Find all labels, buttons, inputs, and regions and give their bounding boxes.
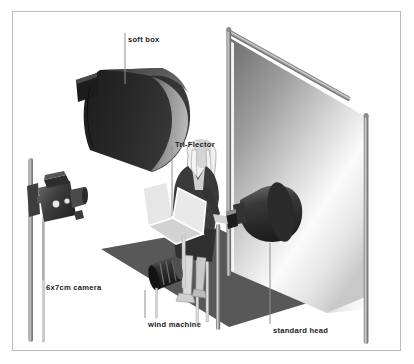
label-wind-machine: wind machine bbox=[148, 321, 201, 329]
tri-flector-stand bbox=[182, 236, 185, 288]
studio-setup-illustration bbox=[0, 0, 414, 364]
label-tri-flector: Tri-Flector bbox=[175, 141, 215, 149]
camera-lug-left bbox=[37, 196, 41, 203]
label-standard-head: standard head bbox=[273, 327, 328, 335]
wind-machine-stand bbox=[156, 288, 158, 318]
camera-dial bbox=[53, 201, 60, 208]
diagram-page: soft box Tri-Flector 6x7cm camera wind m… bbox=[0, 0, 414, 364]
backdrop-paper bbox=[230, 38, 366, 313]
camera-dial-secondary bbox=[64, 198, 69, 203]
label-soft-box: soft box bbox=[128, 36, 160, 44]
camera-lens-front bbox=[82, 187, 88, 204]
backdrop-stand-left bbox=[227, 28, 232, 276]
camera-assembly bbox=[27, 158, 88, 342]
camera-winder bbox=[74, 210, 84, 220]
label-camera: 6x7cm camera bbox=[46, 284, 101, 292]
standard-head-stand bbox=[216, 224, 220, 330]
backdrop-stand-right bbox=[364, 114, 369, 344]
soft-box bbox=[76, 68, 190, 172]
